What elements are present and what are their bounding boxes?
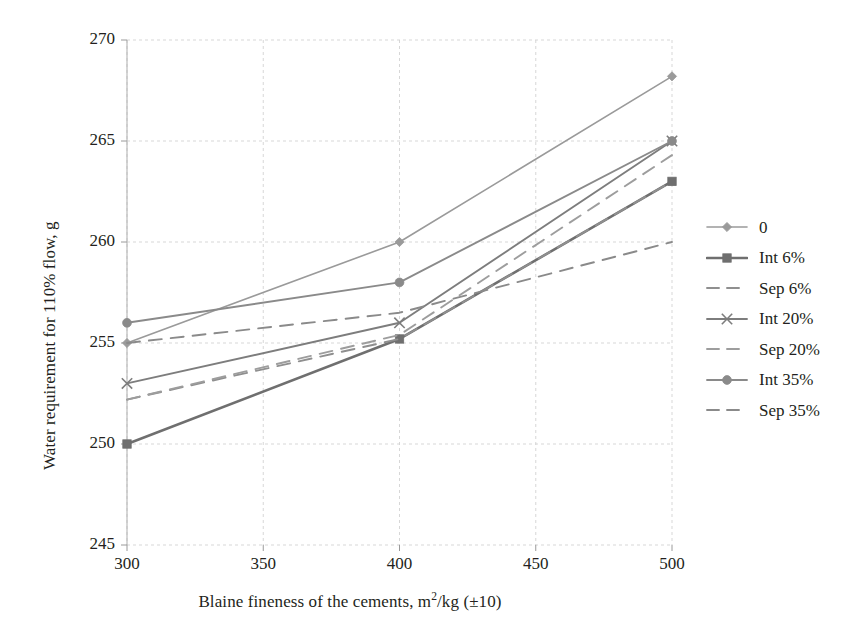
x-tick-label: 300: [97, 554, 157, 574]
legend-marker-icon: [706, 340, 748, 358]
legend-marker-icon: [706, 218, 748, 236]
y-tick-label: 250: [65, 433, 115, 453]
legend-item[interactable]: Sep 20%: [706, 334, 856, 365]
legend-marker-icon: [706, 310, 748, 328]
legend-item-label: Int 35%: [748, 371, 813, 388]
chart-container: Water requirement for 110% flow, g Blain…: [0, 0, 863, 640]
legend-item-label: Sep 20%: [748, 341, 820, 358]
legend-item[interactable]: Sep 6%: [706, 273, 856, 304]
gridlines: [127, 40, 672, 545]
legend-item[interactable]: Int 20%: [706, 304, 856, 335]
legend-item-label: Int 6%: [748, 249, 805, 266]
legend-item-label: 0: [748, 219, 768, 236]
x-tick-label: 400: [370, 554, 430, 574]
legend-marker-icon: [706, 249, 748, 267]
y-tick-label: 255: [65, 332, 115, 352]
x-tick-label: 350: [233, 554, 293, 574]
chart-legend: 0Int 6%Sep 6%Int 20%Sep 20%Int 35%Sep 35…: [706, 212, 856, 426]
legend-item[interactable]: Int 6%: [706, 243, 856, 274]
axis-lines: [121, 40, 672, 551]
y-tick-label: 245: [65, 534, 115, 554]
x-tick-label: 500: [642, 554, 702, 574]
legend-marker-icon: [706, 401, 748, 419]
series-layer: [122, 72, 677, 448]
y-tick-label: 270: [65, 29, 115, 49]
legend-marker-icon: [706, 279, 748, 297]
legend-item[interactable]: 0: [706, 212, 856, 243]
y-tick-label: 260: [65, 231, 115, 251]
legend-marker-icon: [706, 371, 748, 389]
legend-item-label: Sep 35%: [748, 402, 820, 419]
y-tick-label: 265: [65, 130, 115, 150]
x-tick-label: 450: [506, 554, 566, 574]
legend-item-label: Sep 6%: [748, 280, 811, 297]
legend-item-label: Int 20%: [748, 310, 813, 327]
legend-item[interactable]: Int 35%: [706, 365, 856, 396]
legend-item[interactable]: Sep 35%: [706, 395, 856, 426]
